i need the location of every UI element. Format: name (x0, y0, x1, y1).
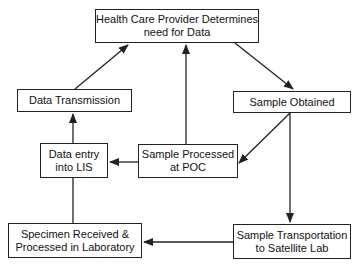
node-label: Processed in Laboratory (15, 241, 134, 254)
node-label: into LIS (49, 161, 100, 174)
node-label: to Satellite Lab (237, 242, 348, 255)
node-label: Health Care Provider Determines (96, 13, 258, 26)
node-specimen-received: Specimen Received & Processed in Laborat… (8, 223, 142, 258)
node-label: Sample Transportation (237, 229, 348, 242)
edge-transmission-to-provider (75, 45, 128, 89)
node-sample-processed-poc: Sample Processed at POC (138, 144, 238, 178)
node-label: Data entry (49, 148, 100, 161)
node-health-care-provider: Health Care Provider Determines need for… (95, 9, 259, 43)
node-data-entry-lis: Data entry into LIS (40, 143, 108, 178)
node-label: need for Data (96, 26, 258, 39)
node-sample-obtained: Sample Obtained (233, 91, 351, 113)
edge-sample-obtained-to-poc (239, 113, 290, 163)
node-label: Sample Processed (142, 148, 234, 161)
node-label: at POC (142, 161, 234, 174)
node-sample-transportation: Sample Transportation to Satellite Lab (233, 224, 351, 259)
node-label: Sample Obtained (250, 96, 335, 109)
edge-provider-to-sample-obtained (235, 43, 293, 89)
node-label: Specimen Received & (15, 228, 134, 241)
node-data-transmission: Data Transmission (17, 89, 132, 112)
node-label: Data Transmission (29, 94, 120, 107)
